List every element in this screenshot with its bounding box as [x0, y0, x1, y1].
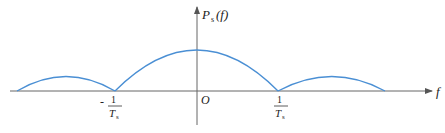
svg-text:T: T — [109, 107, 116, 119]
tick-label-neg-1-over-Ts: - 1 T s — [100, 94, 122, 121]
svg-text:T: T — [275, 107, 282, 119]
left-side-lobe-curve — [17, 77, 115, 92]
svg-text:P: P — [201, 7, 210, 22]
svg-text:1: 1 — [111, 94, 116, 105]
origin-label: O — [201, 93, 210, 107]
y-axis-label: P s (f) — [201, 7, 228, 24]
svg-text:-: - — [100, 95, 104, 109]
psd-diagram: P s (f) f O - 1 T s 1 T s — [0, 0, 445, 133]
svg-text:s: s — [116, 113, 119, 121]
right-side-lobe-curve — [278, 77, 385, 92]
tick-label-1-over-Ts: 1 T s — [274, 94, 288, 121]
x-axis-label: f — [436, 84, 442, 99]
svg-text:s: s — [211, 15, 214, 24]
svg-text:1: 1 — [277, 94, 282, 105]
svg-text:s: s — [282, 113, 285, 121]
svg-text:(f): (f) — [216, 7, 228, 22]
